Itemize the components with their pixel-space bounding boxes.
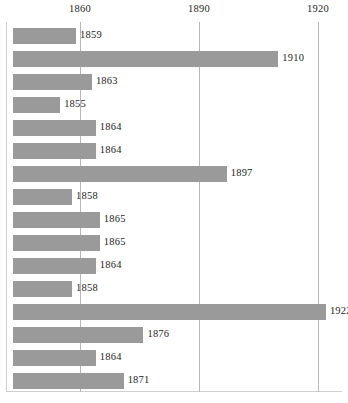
bar-value-label: 1865 <box>104 236 126 247</box>
bar-row: 1855 <box>0 97 348 113</box>
bar[interactable] <box>13 212 100 228</box>
bar[interactable] <box>13 97 60 113</box>
x-tick-label-1920: 1920 <box>307 3 329 14</box>
bar-value-label: 1897 <box>231 167 253 178</box>
bar-value-label: 1864 <box>100 144 122 155</box>
x-tick-label-1890: 1890 <box>188 3 210 14</box>
bar[interactable] <box>13 51 278 67</box>
bar-value-label: 1859 <box>80 29 102 40</box>
bar-row: 1865 <box>0 212 348 228</box>
bar-value-label: 1864 <box>100 259 122 270</box>
bar[interactable] <box>13 373 124 389</box>
bar-row: 1864 <box>0 350 348 366</box>
bar[interactable] <box>13 143 96 159</box>
bar[interactable] <box>13 327 143 343</box>
bars-layer: 1859191018631855186418641897185818651865… <box>0 22 348 392</box>
bar-value-label: 1922 <box>330 305 348 316</box>
bar-row: 1858 <box>0 189 348 205</box>
bar-row: 1897 <box>0 166 348 182</box>
bar-row: 1864 <box>0 258 348 274</box>
bar-chart: 186018901920 185919101863185518641864189… <box>0 0 348 403</box>
bar-value-label: 1864 <box>100 121 122 132</box>
bar-row: 1876 <box>0 327 348 343</box>
bar-value-label: 1855 <box>64 98 86 109</box>
x-axis-tick-labels: 186018901920 <box>0 0 348 22</box>
bar-row: 1864 <box>0 143 348 159</box>
x-tick-label-1860: 1860 <box>69 3 91 14</box>
bar-value-label: 1863 <box>96 75 118 86</box>
bar-value-label: 1871 <box>128 374 150 385</box>
bar-value-label: 1858 <box>76 190 98 201</box>
bar[interactable] <box>13 350 96 366</box>
bar-row: 1863 <box>0 74 348 90</box>
bar-value-label: 1858 <box>76 282 98 293</box>
bar-row: 1859 <box>0 28 348 44</box>
bar-value-label: 1910 <box>282 52 304 63</box>
bar[interactable] <box>13 189 72 205</box>
bar[interactable] <box>13 74 92 90</box>
bar-row: 1858 <box>0 281 348 297</box>
bar-row: 1910 <box>0 51 348 67</box>
bar[interactable] <box>13 120 96 136</box>
bar[interactable] <box>13 235 100 251</box>
bar-value-label: 1876 <box>147 328 169 339</box>
bar[interactable] <box>13 281 72 297</box>
bar[interactable] <box>13 28 76 44</box>
bar-row: 1871 <box>0 373 348 389</box>
bar-value-label: 1864 <box>100 351 122 362</box>
bar[interactable] <box>13 258 96 274</box>
bar-row: 1922 <box>0 304 348 320</box>
bar[interactable] <box>13 304 326 320</box>
bar[interactable] <box>13 166 227 182</box>
bar-row: 1864 <box>0 120 348 136</box>
bar-value-label: 1865 <box>104 213 126 224</box>
bar-row: 1865 <box>0 235 348 251</box>
